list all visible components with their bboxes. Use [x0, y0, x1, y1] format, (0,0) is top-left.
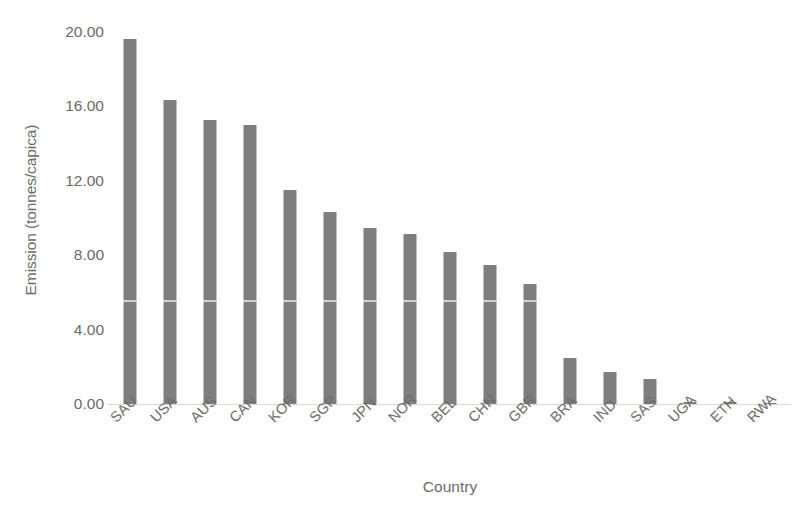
bar-slot: [430, 32, 470, 404]
plot-area: [110, 32, 790, 404]
bar-slot: [270, 32, 310, 404]
bar-slot: [670, 32, 710, 404]
bar-aus[interactable]: [204, 120, 217, 404]
y-axis-tick-labels: 20.0016.0012.008.004.000.00: [46, 0, 104, 420]
bar-sgp[interactable]: [324, 212, 337, 404]
y-axis-title-text: Emission (tonnes/capica): [22, 125, 40, 296]
bar-bel[interactable]: [444, 252, 457, 404]
bar-slot: [190, 32, 230, 404]
y-axis-title: Emission (tonnes/capica): [14, 0, 48, 420]
bar-can[interactable]: [244, 125, 257, 404]
scanline-artifact: [110, 300, 786, 302]
bar-slot: [590, 32, 630, 404]
bar-slot: [750, 32, 790, 404]
bar-slot: [150, 32, 190, 404]
bar-slot: [350, 32, 390, 404]
bar-nor[interactable]: [404, 234, 417, 404]
bar-slot: [470, 32, 510, 404]
bar-slot: [110, 32, 150, 404]
y-axis-tick-label: 4.00: [74, 321, 104, 339]
y-axis-tick-label: 20.00: [65, 23, 104, 41]
bar-slot: [710, 32, 750, 404]
bar-jpn[interactable]: [364, 228, 377, 404]
bar-slot: [310, 32, 350, 404]
y-axis-tick-label: 0.00: [74, 395, 104, 413]
bar-kor[interactable]: [284, 190, 297, 404]
x-axis-tick-labels: SAUUSAAUSCANKORSGPJPNNORBELCHNGBRBRAINDS…: [110, 404, 790, 464]
y-axis-tick-label: 16.00: [65, 97, 104, 115]
bar-sau[interactable]: [124, 39, 137, 404]
bar-series: [110, 32, 790, 404]
bar-chn[interactable]: [484, 265, 497, 404]
x-axis-title-text: Country: [423, 478, 477, 495]
bar-slot: [390, 32, 430, 404]
bar-slot: [230, 32, 270, 404]
y-axis-tick-label: 8.00: [74, 246, 104, 264]
bar-chart: Emission (tonnes/capica) 20.0016.0012.00…: [0, 0, 805, 530]
bar-slot: [510, 32, 550, 404]
bar-slot: [630, 32, 670, 404]
bar-slot: [550, 32, 590, 404]
x-axis-title: Country: [110, 478, 790, 496]
bar-gbr[interactable]: [524, 284, 537, 404]
bar-usa[interactable]: [164, 100, 177, 404]
y-axis-tick-label: 12.00: [65, 172, 104, 190]
